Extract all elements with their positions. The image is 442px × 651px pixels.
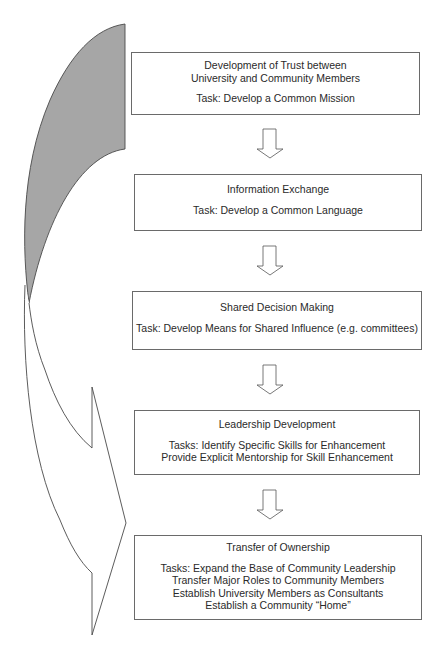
stage-task: Establish a Community “Home” xyxy=(135,599,421,612)
diagram-canvas: Development of Trust between University … xyxy=(0,0,442,651)
stage-box-transfer-of-ownership: Transfer of Ownership Tasks: Expand the … xyxy=(134,535,422,620)
stage-task: Transfer Major Roles to Community Member… xyxy=(135,574,421,587)
stage-title: Transfer of Ownership xyxy=(135,541,421,554)
stage-task: Establish University Members as Consulta… xyxy=(135,587,421,600)
stage-task: Tasks: Expand the Base of Community Lead… xyxy=(135,562,421,575)
